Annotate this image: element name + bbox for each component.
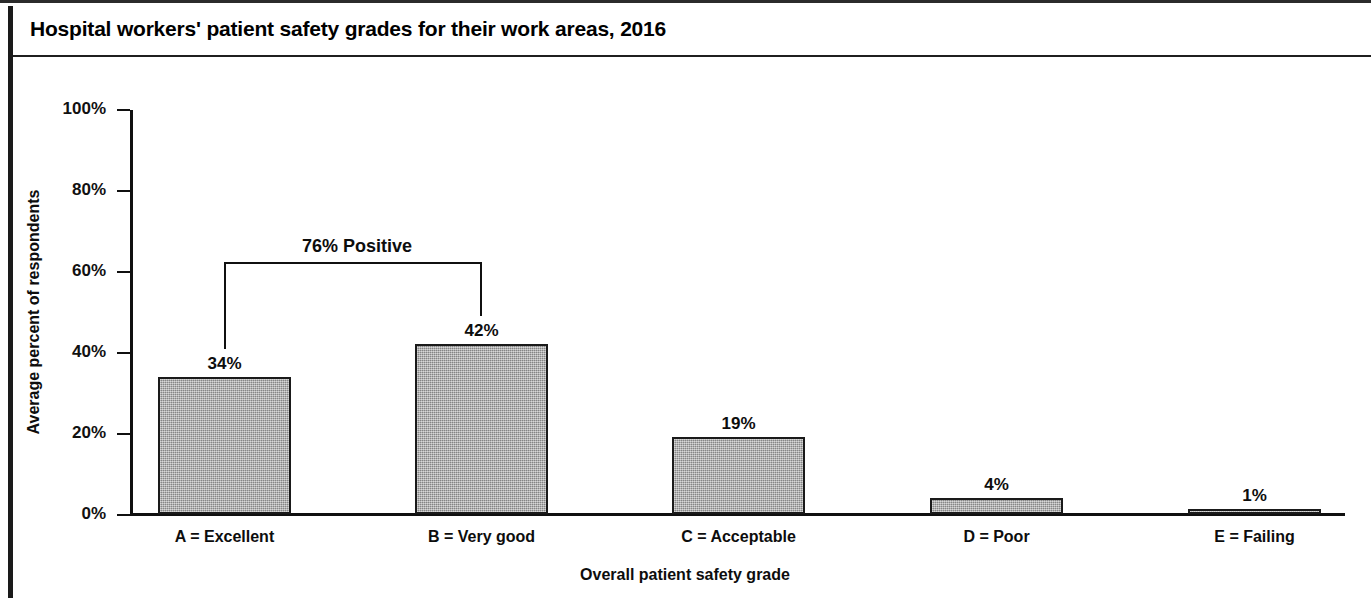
category-label-b: B = Very good: [400, 528, 563, 546]
category-label-d: D = Poor: [925, 528, 1068, 546]
bar-d-poor[interactable]: [930, 498, 1063, 514]
y-tick-label-0: 0%: [81, 504, 106, 524]
bar-value-d: 4%: [930, 475, 1063, 495]
bar-value-e: 1%: [1188, 486, 1321, 506]
bar-e-failing[interactable]: [1188, 509, 1321, 514]
chart-figure: Hospital workers' patient safety grades …: [0, 0, 1371, 598]
annotation-bracket-top: [224, 262, 482, 264]
category-label-c: C = Acceptable: [655, 528, 822, 546]
category-label-e: E = Failing: [1184, 528, 1325, 546]
y-tick-label-80: 80%: [72, 180, 106, 200]
x-axis-title: Overall patient safety grade: [130, 566, 1240, 584]
annotation-bracket-right-arm: [480, 262, 482, 316]
annotation-bracket-left-arm: [224, 262, 226, 349]
y-tick-label-100: 100%: [63, 99, 106, 119]
bar-value-a: 34%: [158, 354, 291, 374]
y-axis-title: Average percent of respondents: [25, 152, 43, 472]
y-tick-label-40: 40%: [72, 342, 106, 362]
bar-b-very-good[interactable]: [415, 344, 548, 514]
y-tick-label-20: 20%: [72, 423, 106, 443]
bar-value-b: 42%: [415, 321, 548, 341]
annotation-label-positive: 76% Positive: [232, 236, 482, 257]
y-tick-label-60: 60%: [72, 261, 106, 281]
bar-c-acceptable[interactable]: [672, 437, 805, 514]
bar-value-c: 19%: [672, 414, 805, 434]
category-label-a: A = Excellent: [144, 528, 305, 546]
bar-a-excellent[interactable]: [158, 377, 291, 514]
y-axis-line: [130, 110, 133, 516]
plot-area: Average percent of respondents 0% 20% 40…: [0, 0, 1371, 598]
